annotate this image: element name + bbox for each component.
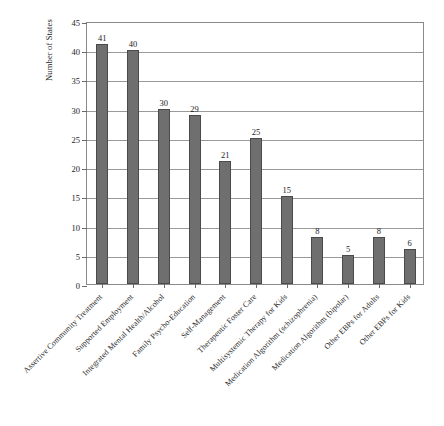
y-tick-mark: [82, 81, 87, 82]
y-tick-label: 10: [72, 223, 81, 233]
plot-area: 051015202530354045414030292125158586: [86, 22, 424, 285]
x-tick-mark: [348, 284, 349, 288]
x-category-label: Family Psycho-Education: [84, 292, 196, 404]
x-category-label: Other EBPs for Kids: [299, 292, 411, 404]
x-tick-mark: [133, 284, 134, 288]
bar: [281, 196, 293, 284]
y-tick-label: 20: [72, 164, 81, 174]
y-tick-label: 30: [72, 106, 81, 116]
bar-value-label: 41: [98, 33, 107, 43]
bar-value-label: 30: [160, 98, 169, 108]
y-tick-mark: [82, 23, 87, 24]
y-tick-mark: [82, 52, 87, 53]
y-tick-mark: [82, 169, 87, 170]
x-category-label: Multisystemic Therapy for Kids: [176, 292, 288, 404]
bar-value-label: 6: [408, 238, 412, 248]
bar-value-label: 8: [315, 226, 319, 236]
x-tick-mark: [317, 284, 318, 288]
x-tick-mark: [287, 284, 288, 288]
y-tick-label: 40: [72, 47, 81, 57]
bar-value-label: 5: [346, 244, 350, 254]
bar: [373, 237, 385, 284]
bar: [404, 249, 416, 284]
x-tick-mark: [379, 284, 380, 288]
bar-value-label: 40: [129, 39, 138, 49]
y-tick-mark: [82, 286, 87, 287]
x-tick-mark: [410, 284, 411, 288]
bar-value-label: 29: [190, 104, 199, 114]
figure-caption: [44, 414, 436, 424]
bar: [158, 109, 170, 284]
y-tick-label: 35: [72, 76, 81, 86]
x-tick-mark: [256, 284, 257, 288]
bar: [311, 237, 323, 284]
y-tick-mark: [82, 257, 87, 258]
y-tick-mark: [82, 111, 87, 112]
x-category-label: Medication Algorithm (schizophrenia): [207, 292, 319, 404]
bar-value-label: 21: [221, 150, 230, 160]
x-tick-mark: [164, 284, 165, 288]
y-axis-title: Number of States: [44, 0, 58, 120]
bar-value-label: 8: [377, 226, 381, 236]
y-tick-label: 25: [72, 135, 81, 145]
y-tick-mark: [82, 140, 87, 141]
bar-chart-figure: Number of States 05101520253035404541403…: [0, 0, 444, 426]
x-category-label: Assertive Community Treatment: [0, 292, 105, 404]
bar: [96, 44, 108, 284]
bar: [189, 115, 201, 284]
x-tick-mark: [102, 284, 103, 288]
bar: [127, 50, 139, 284]
y-tick-mark: [82, 198, 87, 199]
y-tick-label: 15: [72, 193, 81, 203]
x-category-label: Integrated Mental Health/Alcohol: [54, 292, 166, 404]
y-tick-label: 5: [76, 252, 80, 262]
bar: [250, 138, 262, 284]
x-tick-mark: [195, 284, 196, 288]
bar: [342, 255, 354, 284]
bar-value-label: 25: [252, 127, 261, 137]
x-category-label: Other EBPs for Adults: [269, 292, 381, 404]
x-category-label: Self-Management: [115, 292, 227, 404]
y-tick-label: 0: [76, 281, 80, 291]
y-tick-label: 45: [72, 18, 81, 28]
x-tick-mark: [225, 284, 226, 288]
y-tick-mark: [82, 228, 87, 229]
bar: [219, 161, 231, 284]
bar-value-label: 15: [282, 185, 291, 195]
